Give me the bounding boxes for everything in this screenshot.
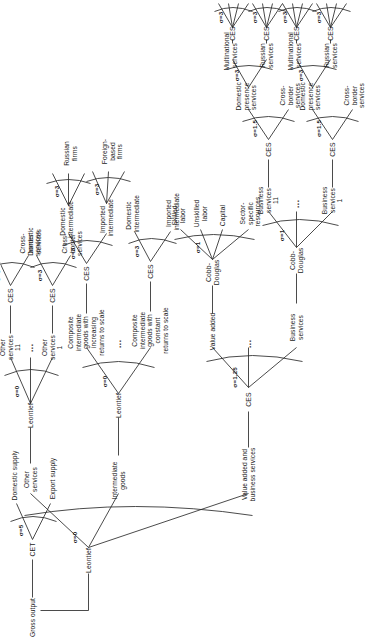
node-domestic-presence-services-11: Domestic presence services xyxy=(235,84,258,110)
sigma-ces-business-services-1: σ=1.5 xyxy=(314,120,321,137)
node-cobb-douglas-value-added: Cobb-Douglas xyxy=(204,252,220,292)
node-domestic-presence-services-1: Domestic presence services xyxy=(299,84,322,110)
sigma-leontief-top: σ=0 xyxy=(70,531,77,543)
nesting-tree-canvas: Gross output CET σ=5 Domestic supply Exp… xyxy=(0,0,381,643)
node-ces-other-services-11: CES xyxy=(6,284,14,306)
node-capital: Capital xyxy=(218,202,226,228)
sigma-cobb-douglas-business-services: σ=1 xyxy=(277,229,284,241)
node-leontief-other-services: Leontief xyxy=(26,400,34,430)
node-value-added: Value added xyxy=(208,311,216,351)
sigma-cobb-douglas-value-added: σ=1 xyxy=(193,241,200,253)
dots-business-services: … xyxy=(291,198,301,208)
node-cross-border-services-1: Cross- border services xyxy=(61,230,84,256)
sigma-ces-multinational-11: σ=3 xyxy=(216,11,223,23)
node-cross-border-services-11: Cross- border services xyxy=(19,230,42,256)
node-ces-value-added-business: CES xyxy=(244,388,252,410)
node-gross-output: Gross output xyxy=(28,595,36,639)
node-business-services-1: Business services 1 xyxy=(321,185,344,215)
node-business-services-11: Business services 11 xyxy=(257,185,280,215)
node-imported-intermediate-a: Imported intermediate xyxy=(98,202,113,236)
node-other-services-11: Other services 11 xyxy=(0,332,21,362)
node-cobb-douglas-business-services: Cobb-Douglas xyxy=(288,240,304,280)
node-russian-firms: Russian firms xyxy=(62,136,77,170)
sigma-ces-russian-1: σ=3 xyxy=(314,11,321,23)
node-foreign-based-firms: Foreign-based firms xyxy=(101,134,124,168)
node-ces-other-services-1: CES xyxy=(48,284,56,306)
node-cross-border-services-bs11: Cross- border services xyxy=(279,82,302,108)
node-business-services: Business services xyxy=(288,302,303,352)
node-ces-business-services-1: CES xyxy=(328,138,336,160)
node-ces-intermediate-a: CES xyxy=(82,262,90,284)
node-domestic-supply: Domestic supply xyxy=(10,450,18,500)
node-unskilled-labor: Unskilled labor xyxy=(192,198,207,228)
node-ces-business-services-11: CES xyxy=(264,138,272,160)
node-composite-intermediate-increasing: Composite intermediate goods with increa… xyxy=(67,306,105,358)
node-domestic-intermediate-b: Domestic intermediate xyxy=(124,198,139,232)
sigma-foreign-based-firms: σ=3 xyxy=(92,183,99,195)
node-skilled-labor: Skilled labor xyxy=(170,202,185,228)
sigma-ces-business-services-11: σ=1.5 xyxy=(250,120,257,137)
node-cet: CET xyxy=(28,538,36,560)
node-multinational-services-11: Multinational services xyxy=(222,40,237,70)
dots-value-added-business: … xyxy=(243,338,253,348)
node-ces-russian-11: CES xyxy=(262,22,270,44)
node-ces-multinational-1: CES xyxy=(292,22,300,44)
sigma-domestic-presence-services-1: σ=3 xyxy=(296,69,303,81)
node-ces-multinational-11: CES xyxy=(228,22,236,44)
node-other-services-1: Other services 1 xyxy=(41,332,64,362)
node-export-supply: Export supply xyxy=(48,456,56,500)
node-multinational-services-1: Multinational services xyxy=(286,40,301,70)
node-other-services: Other services xyxy=(22,462,37,496)
node-ces-intermediate-b: CES xyxy=(146,260,154,282)
node-intermediate-goods: Intermediate goods xyxy=(110,455,125,505)
node-ces-russian-1: CES xyxy=(326,22,334,44)
sigma-ces-multinational-1: σ=3 xyxy=(280,11,287,23)
sigma-cet: σ=5 xyxy=(16,524,23,536)
sigma-ces-other-services-1: σ=3 xyxy=(35,269,42,281)
node-cross-border-services-bs1: Cross- border services xyxy=(343,82,366,108)
dots-other-services: … xyxy=(25,342,35,352)
node-leontief-intermediate: Leontief xyxy=(114,390,122,420)
sigma-ces-intermediate-b: σ=3 xyxy=(132,245,139,257)
node-composite-intermediate-constant: Composite intermediate goods with consta… xyxy=(131,304,169,356)
sigma-russian-firms: σ=3 xyxy=(52,185,59,197)
node-russian-services-1: Russian services xyxy=(322,42,337,68)
sigma-ces-other-services-11: σ=3 xyxy=(0,269,1,281)
node-value-added-and-business-services: Value added and business services xyxy=(240,445,255,503)
dots-intermediate: … xyxy=(113,338,123,348)
node-russian-services-11: Russian services xyxy=(258,42,273,68)
sigma-leontief-intermediate: σ=0 xyxy=(100,375,107,387)
tree-edges xyxy=(0,0,381,643)
sigma-ces-value-added-business: σ=1.25 xyxy=(230,367,237,388)
figure-page: Gross output CET σ=5 Domestic supply Exp… xyxy=(0,0,381,643)
node-leontief-top: Leontief xyxy=(84,545,92,575)
sigma-ces-russian-11: σ=3 xyxy=(250,11,257,23)
sigma-leontief-other-services: σ=0 xyxy=(12,385,19,397)
sigma-domestic-presence-services-11: σ=3 xyxy=(232,69,239,81)
